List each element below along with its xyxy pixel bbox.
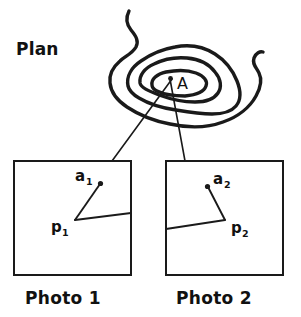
ground-point-a-dot [168,76,173,81]
photo-2-point-p-subscript: 2 [242,228,249,239]
photo-1-point-p-label: p [51,218,62,236]
photo-1-caption: Photo 1 [25,288,101,308]
photo-1-frame [14,161,131,275]
photo-2-point-a-dot [205,184,210,189]
photo-1-point-a-dot [98,181,103,186]
photogrammetry-intersection-figure: A Plan a 1 p 1 Photo 1 a 2 p 2 Photo 2 [0,0,301,317]
photo-2-point-a-subscript: 2 [224,179,231,190]
photo-2-point-p-label: p [231,219,242,237]
photo-2-point-a-label: a [213,170,223,188]
plan-title: Plan [16,39,59,59]
photo-1-point-p-subscript: 1 [62,227,69,238]
photo-1-point-a-label: a [75,167,85,185]
photo-2-caption: Photo 2 [176,288,252,308]
photo-1-point-a-subscript: 1 [86,176,93,187]
ground-point-a-label: A [177,74,188,93]
